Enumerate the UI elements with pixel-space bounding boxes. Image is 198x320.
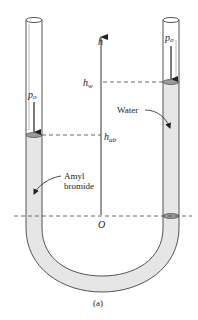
- amyl-bromide-label-line1: Amyl: [64, 171, 85, 181]
- right-tube-opening: [163, 18, 179, 23]
- hw-label: hw: [83, 77, 93, 90]
- origin-label: O: [98, 219, 105, 230]
- left-fluid-surface-disk: [26, 133, 42, 138]
- u-tube-manometer-diagram: h O hw hab po po Water Amyl bromide (a): [0, 0, 198, 320]
- right-fluid-surface-disk: [163, 80, 179, 85]
- left-pressure-label: po: [27, 89, 37, 101]
- left-tube-opening: [26, 18, 42, 23]
- water-label: Water: [117, 105, 138, 115]
- hab-label: hab: [104, 131, 117, 144]
- h-axis-label: h: [98, 36, 103, 47]
- right-tube: [163, 18, 179, 219]
- figure-caption: (a): [93, 298, 103, 308]
- right-pressure-label: po: [164, 32, 174, 44]
- amyl-bromide-label-line2: bromide: [64, 181, 94, 191]
